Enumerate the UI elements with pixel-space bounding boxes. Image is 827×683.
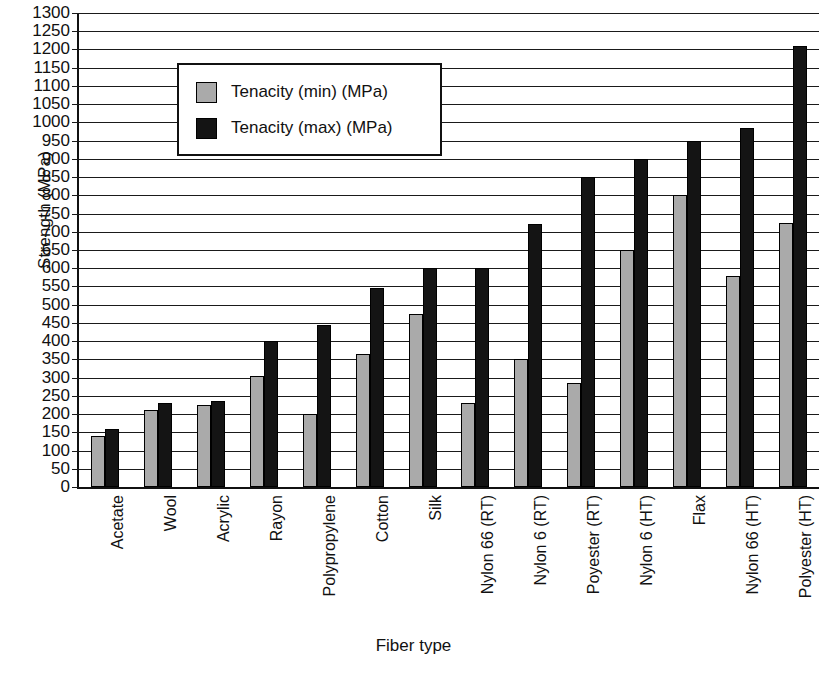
bar <box>793 46 807 487</box>
y-axis-tickmark <box>72 159 79 160</box>
x-axis-tick-label: Nylon 66 (HT) <box>745 495 761 595</box>
y-axis-tickmark <box>72 359 79 360</box>
bar <box>740 128 754 487</box>
bar <box>528 224 542 487</box>
y-axis-tickmark <box>72 122 79 123</box>
y-axis-tick-label: 550 <box>12 277 70 294</box>
bar <box>211 401 225 487</box>
x-axis-tick-label: Silk <box>428 495 444 521</box>
y-axis-tickmark <box>72 469 79 470</box>
y-axis-tick-label: 0 <box>12 478 70 495</box>
bar <box>370 288 384 487</box>
x-axis-tick-label: Flax <box>692 495 708 525</box>
bar-chart: Strength (MPa) 1300125012001150110010501… <box>0 0 827 683</box>
bar <box>264 341 278 487</box>
bar <box>105 429 119 487</box>
bar <box>567 383 581 487</box>
y-axis-tickmark <box>72 396 79 397</box>
y-axis-tickmark <box>72 195 79 196</box>
y-axis-tick-label: 400 <box>12 332 70 349</box>
y-axis-tick-label: 600 <box>12 259 70 276</box>
y-axis-tick-label: 250 <box>12 387 70 404</box>
y-axis-tick-label: 700 <box>12 223 70 240</box>
y-axis-tick-label: 150 <box>12 423 70 440</box>
x-axis-tick-label-wrap: Nylon 6 (HT) <box>639 495 655 586</box>
y-axis-tick-label: 850 <box>12 168 70 185</box>
x-axis-tick-label-wrap: Nylon 66 (HT) <box>745 495 761 595</box>
x-axis-tick-label-wrap: Wool <box>163 495 179 531</box>
legend-entry-min: Tenacity (min) (MPa) <box>196 79 388 105</box>
y-axis-tick-label: 650 <box>12 241 70 258</box>
y-axis-tick-label: 1300 <box>12 4 70 21</box>
y-axis-tick-label: 50 <box>12 460 70 477</box>
bar <box>250 376 264 487</box>
y-axis-tickmark <box>72 323 79 324</box>
y-axis-tick-label: 500 <box>12 296 70 313</box>
y-axis-tick-label: 1200 <box>12 40 70 57</box>
x-axis-tick-label-wrap: Silk <box>428 495 444 521</box>
bar <box>620 250 634 487</box>
legend-label-max: Tenacity (max) (MPa) <box>231 118 393 138</box>
bar <box>514 359 528 487</box>
black-square-icon <box>196 118 217 139</box>
x-axis-tick-label: Cotton <box>375 495 391 542</box>
y-axis-tick-label: 1100 <box>12 77 70 94</box>
x-axis-title: Fiber type <box>0 636 827 656</box>
y-axis-tickmark <box>72 432 79 433</box>
y-axis-tickmark <box>72 214 79 215</box>
y-axis-tickmark <box>72 451 79 452</box>
y-axis-tickmark <box>72 49 79 50</box>
x-axis-tick-label-wrap: Poyester (RT) <box>586 495 602 594</box>
y-axis-tick-label: 1000 <box>12 113 70 130</box>
x-axis-tick-label: Polyester (HT) <box>798 495 814 598</box>
y-axis-tickmark <box>72 487 79 488</box>
y-axis-tick-label: 1050 <box>12 95 70 112</box>
y-axis-tickmark <box>72 341 79 342</box>
y-axis-tickmark <box>72 268 79 269</box>
x-axis-tick-label: Nylon 6 (HT) <box>639 495 655 586</box>
y-axis-tickmark <box>72 68 79 69</box>
y-axis-tick-label: 300 <box>12 369 70 386</box>
x-axis-tick-label: Acrylic <box>216 495 232 542</box>
y-axis-tickmark <box>72 86 79 87</box>
y-axis-tickmark <box>72 31 79 32</box>
x-axis-tick-label-wrap: Rayon <box>269 495 285 541</box>
y-axis-tickmark <box>72 378 79 379</box>
y-axis-tick-label: 1150 <box>12 59 70 76</box>
y-axis-tick-label: 800 <box>12 186 70 203</box>
x-axis-tick-label-wrap: Acrylic <box>216 495 232 542</box>
legend-label-min: Tenacity (min) (MPa) <box>231 82 388 102</box>
x-axis-tick-label-wrap: Cotton <box>375 495 391 542</box>
bar <box>409 314 423 487</box>
y-axis-tick-label: 100 <box>12 442 70 459</box>
x-axis-tick-label: Acetate <box>110 495 126 549</box>
y-axis-tick-label: 350 <box>12 350 70 367</box>
x-axis-tick-label: Nylon 66 (RT) <box>480 495 496 594</box>
y-axis-tick-labels: 1300125012001150110010501000950900850800… <box>12 13 70 487</box>
y-axis-tickmark <box>72 232 79 233</box>
bar <box>687 141 701 487</box>
x-axis-tick-label-wrap: Flax <box>692 495 708 525</box>
y-axis-tickmark <box>72 177 79 178</box>
y-axis-tickmark <box>72 305 79 306</box>
bar <box>423 268 437 487</box>
bar <box>197 405 211 487</box>
x-axis-tick-labels: AcetateWoolAcrylicRayonPolypropyleneCott… <box>77 491 817 621</box>
bar <box>726 276 740 487</box>
bar <box>144 410 158 487</box>
y-axis-tick-label: 900 <box>12 150 70 167</box>
y-axis-tickmark <box>72 250 79 251</box>
x-axis-tick-label: Poyester (RT) <box>586 495 602 594</box>
legend-entry-max: Tenacity (max) (MPa) <box>196 115 393 141</box>
x-axis-tick-label: Nylon 6 (RT) <box>533 495 549 585</box>
bar <box>634 159 648 487</box>
bar <box>779 223 793 487</box>
x-axis-tick-label-wrap: Polypropylene <box>322 495 338 596</box>
x-axis-tick-label-wrap: Nylon 6 (RT) <box>533 495 549 585</box>
y-axis-tickmark <box>72 414 79 415</box>
bar <box>581 177 595 487</box>
bar <box>673 195 687 487</box>
y-axis-tick-label: 950 <box>12 132 70 149</box>
bar <box>475 268 489 487</box>
x-axis-tick-label-wrap: Acetate <box>110 495 126 549</box>
